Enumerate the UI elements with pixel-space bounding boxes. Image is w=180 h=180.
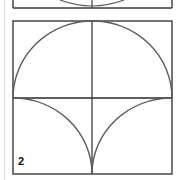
lower-left-arc: [13, 98, 92, 174]
panel-2-label: 2: [18, 155, 24, 167]
panel-2: [13, 21, 172, 174]
panel-1: [13, 0, 172, 8]
figure-canvas: [0, 0, 180, 180]
lower-right-arc: [92, 98, 172, 174]
